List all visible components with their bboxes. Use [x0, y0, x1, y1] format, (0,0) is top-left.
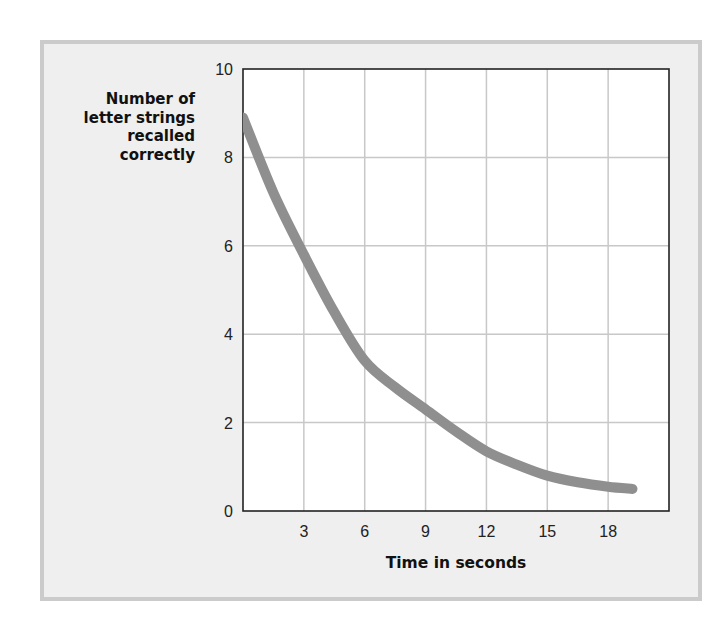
y-tick-label: 2: [224, 415, 233, 432]
x-tick-label: 18: [599, 523, 617, 540]
y-tick-label: 4: [224, 326, 233, 343]
x-tick-label: 9: [421, 523, 430, 540]
x-tick-label: 12: [478, 523, 496, 540]
plot-area: [243, 69, 669, 511]
y-tick-label: 0: [224, 503, 233, 520]
plot-background: [243, 69, 669, 511]
x-tick-label: 3: [299, 523, 308, 540]
y-tick-label: 10: [215, 61, 233, 78]
y-axis-label: Number of letter strings recalled correc…: [60, 90, 195, 164]
y-tick-label: 6: [224, 238, 233, 255]
x-axis-label: Time in seconds: [243, 554, 669, 572]
x-axis-ticks: 369121518: [299, 523, 617, 540]
y-axis-ticks: 0246810: [215, 61, 233, 520]
x-tick-label: 15: [538, 523, 556, 540]
y-tick-label: 8: [224, 149, 233, 166]
x-tick-label: 6: [360, 523, 369, 540]
